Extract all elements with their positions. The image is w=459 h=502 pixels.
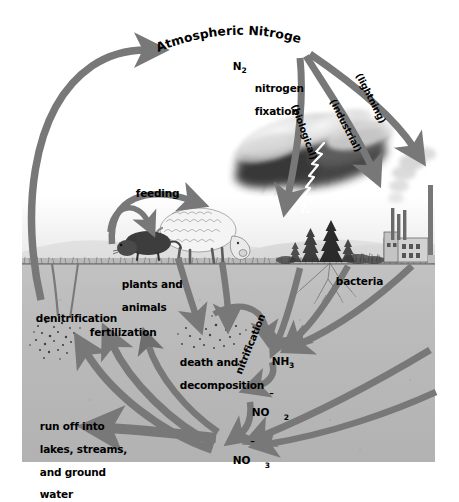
nitrite-label: NO – 2: [238, 386, 289, 433]
page-title: Atmospheric Nitrogen: [0, 0, 303, 55]
nitrate-label: NO – 3: [219, 434, 270, 481]
feeding-label: feeding: [122, 177, 179, 211]
fertilization-label: fertilization: [76, 316, 156, 350]
bacteria-label: bacteria: [322, 265, 383, 299]
runoff-label: run off into lakes, streams, and ground …: [26, 410, 127, 502]
svg-text:Atmospheric Nitrogen: Atmospheric Nitrogen: [0, 0, 303, 55]
